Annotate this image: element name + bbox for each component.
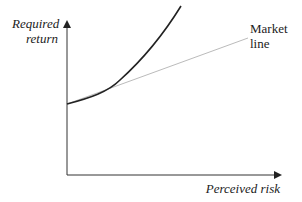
- y-axis-label-line2: return: [12, 31, 58, 46]
- market-line-label-line2: line: [250, 36, 288, 51]
- y-axis-label-line1: Required: [12, 16, 58, 31]
- market-line-label: Market line: [250, 21, 288, 51]
- required-return-curve: [67, 6, 181, 104]
- market-line-label-line1: Market: [250, 21, 288, 36]
- x-axis-label: Perceived risk: [190, 181, 280, 196]
- y-axis-label: Required return: [12, 16, 58, 46]
- market-line: [67, 38, 248, 104]
